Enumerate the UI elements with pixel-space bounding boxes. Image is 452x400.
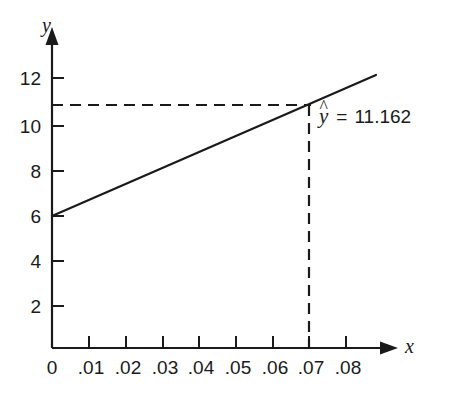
x-tick-label-04: .04 <box>188 358 214 377</box>
chart-figure: y x 12 10 8 6 4 2 0 .01 .02 .03 .04 .05 … <box>0 0 452 400</box>
predicted-value-number: 11.162 <box>354 106 411 128</box>
predicted-value-annotation: ^ y = 11.162 <box>318 104 411 129</box>
x-tick-label-07: .07 <box>298 358 324 377</box>
x-axis-ticks <box>52 336 346 348</box>
x-tick-label-06: .06 <box>262 358 288 377</box>
regression-line-chart <box>0 0 452 400</box>
x-axis-arrow-icon <box>380 342 398 355</box>
y-tick-label-2: 2 <box>8 297 41 316</box>
x-tick-label-08: .08 <box>335 358 361 377</box>
y-tick-label-10: 10 <box>8 117 41 136</box>
y-tick-label-8: 8 <box>8 162 41 181</box>
x-axis-title: x <box>405 335 414 358</box>
equals-sign: = <box>336 106 347 128</box>
y-axis-ticks <box>52 78 64 306</box>
x-tick-label-01: .01 <box>78 358 104 377</box>
x-tick-label-02: .02 <box>115 358 141 377</box>
y-axis-title: y <box>42 14 51 37</box>
y-tick-label-6: 6 <box>8 207 41 226</box>
y-tick-label-12: 12 <box>8 69 41 88</box>
x-tick-label-03: .03 <box>152 358 178 377</box>
x-tick-label-05: .05 <box>225 358 251 377</box>
hat-accent-icon: ^ <box>319 99 327 117</box>
y-hat-symbol: ^ y <box>318 104 329 129</box>
x-tick-label-0: 0 <box>47 358 58 377</box>
y-tick-label-4: 4 <box>8 252 41 271</box>
